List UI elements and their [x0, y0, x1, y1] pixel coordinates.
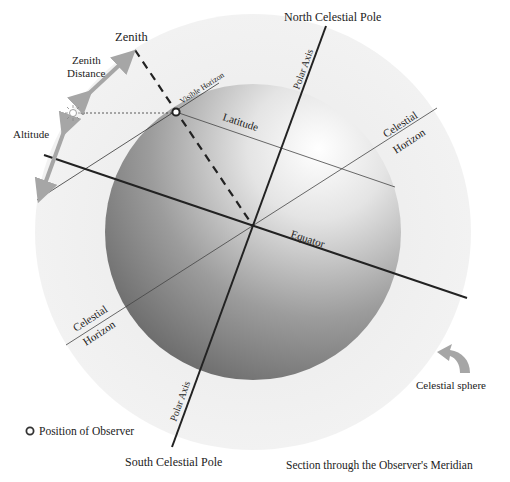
sightline-dot: [81, 111, 84, 114]
celestial-sphere-diagram: Zenith Zenith Distance Altitude Visible …: [0, 0, 510, 482]
celestial-sphere-label: Celestial sphere: [416, 379, 486, 391]
zenith-distance-label-2: Distance: [67, 67, 106, 79]
zenith-label: Zenith: [115, 30, 148, 44]
north-celestial-pole-label: North Celestial Pole: [284, 10, 381, 24]
south-celestial-pole-label: South Celestial Pole: [125, 455, 222, 469]
legend-observer-icon: [26, 427, 33, 434]
zenith-distance-label-1: Zenith: [72, 54, 101, 66]
celestial-sphere-arrow: [437, 344, 470, 373]
altitude-label: Altitude: [13, 128, 49, 140]
diagram-title: Section through the Observer's Meridian: [286, 459, 473, 472]
legend-observer-label: Position of Observer: [39, 425, 134, 437]
star-icon: [65, 105, 81, 121]
observer-marker-icon: [172, 108, 179, 115]
